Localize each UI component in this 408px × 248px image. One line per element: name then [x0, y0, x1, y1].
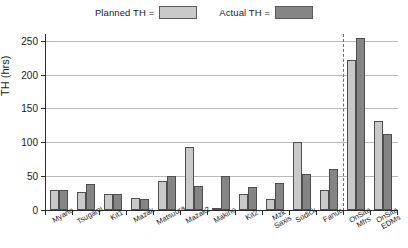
bar-group — [126, 34, 153, 210]
legend-item-actual: Actual TH = — [219, 6, 313, 19]
bar — [275, 183, 284, 210]
bar-group — [207, 34, 234, 210]
bar — [320, 190, 329, 210]
bar — [86, 184, 95, 210]
bar-groups — [45, 34, 397, 210]
bar — [131, 198, 140, 210]
legend-swatch-actual — [275, 6, 313, 19]
chart-legend: Planned TH = Actual TH = — [0, 6, 408, 19]
bar-group — [316, 34, 343, 210]
category-separator-dashed-line — [343, 34, 344, 211]
bar — [221, 176, 230, 210]
legend-label-planned: Planned TH = — [95, 7, 154, 18]
bar-group — [153, 34, 180, 210]
bar-group — [45, 34, 72, 210]
bar-group — [370, 34, 397, 210]
bar — [239, 194, 248, 210]
bar-group — [235, 34, 262, 210]
bar — [248, 187, 257, 210]
bar — [266, 199, 275, 210]
y-axis-tick-label: 50 — [27, 171, 38, 182]
y-axis-tick-label: 200 — [21, 69, 38, 80]
y-axis-tick-label: 150 — [21, 103, 38, 114]
bar — [347, 60, 356, 210]
bar — [77, 192, 86, 210]
bar-group — [99, 34, 126, 210]
bar — [104, 194, 113, 210]
bar — [50, 190, 59, 210]
y-axis-tick-labels: 050100150200250 — [0, 34, 40, 210]
bar-group — [180, 34, 207, 210]
bar — [374, 121, 383, 210]
bar — [185, 147, 194, 210]
bar-group — [343, 34, 370, 210]
bar — [293, 142, 302, 210]
bar — [356, 38, 365, 210]
legend-label-actual: Actual TH = — [219, 7, 270, 18]
legend-swatch-planned — [159, 6, 197, 19]
y-axis-tick-label: 100 — [21, 137, 38, 148]
bar-group — [289, 34, 316, 210]
bar — [167, 176, 176, 210]
bar-group — [262, 34, 289, 210]
bar — [158, 181, 167, 210]
y-axis-tick-label: 0 — [32, 205, 38, 216]
bar-group — [72, 34, 99, 210]
chart-figure: Planned TH = Actual TH = TH (hrs) 050100… — [0, 0, 408, 248]
y-axis-tick-label: 250 — [21, 35, 38, 46]
bar — [329, 169, 338, 210]
bar — [302, 174, 311, 210]
legend-item-planned: Planned TH = — [95, 6, 197, 19]
bar — [383, 134, 392, 210]
x-axis-tick-labels: MyanoTsugamiKit1MazakMatsuuraMazak2Makin… — [45, 212, 397, 248]
